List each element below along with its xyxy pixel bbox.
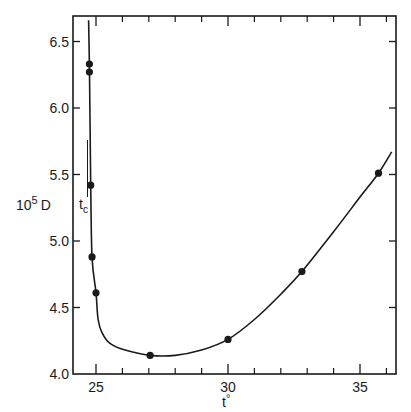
- data-point: [86, 61, 93, 68]
- tc-annotation: tc: [79, 196, 88, 215]
- data-point: [86, 68, 93, 75]
- data-point: [147, 352, 154, 359]
- y-tick-label: 4.5: [50, 300, 70, 316]
- plot-frame: [73, 16, 396, 374]
- y-axis-label: 105D: [16, 194, 51, 213]
- axis-ticks: [73, 16, 396, 374]
- x-axis-label: t°: [222, 392, 230, 410]
- x-tick-label: 35: [352, 379, 368, 395]
- y-tick-label: 4.0: [50, 366, 70, 382]
- y-tick-label: 6.5: [50, 34, 70, 50]
- data-point: [375, 170, 382, 177]
- data-point: [92, 289, 99, 296]
- data-point: [224, 336, 231, 343]
- y-tick-label: 5.0: [50, 233, 70, 249]
- x-tick-label: 25: [88, 379, 104, 395]
- y-tick-label: 5.5: [50, 167, 70, 183]
- data-points: [86, 61, 382, 359]
- y-tick-label: 6.0: [50, 100, 70, 116]
- data-point: [87, 182, 94, 189]
- fitted-curve: [89, 20, 392, 356]
- chart: 2530354.04.55.05.56.06.5 105D tc t°: [0, 0, 411, 412]
- tick-labels: 2530354.04.55.05.56.06.5: [50, 34, 368, 396]
- data-point: [298, 268, 305, 275]
- data-point: [88, 253, 95, 260]
- plot-border: [73, 16, 396, 374]
- curve-path: [89, 20, 392, 356]
